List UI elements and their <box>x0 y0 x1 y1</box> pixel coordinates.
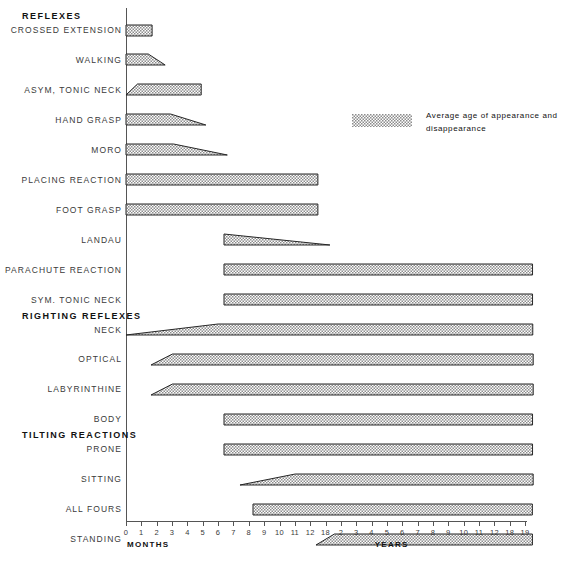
row-label-optical: OPTICAL <box>78 354 122 364</box>
row-label-sitting: SITTING <box>81 474 122 484</box>
row-label-walking: WALKING <box>76 55 122 65</box>
x-axis-tick <box>126 521 127 526</box>
bar-asym-tonic-neck <box>125 83 202 96</box>
group-heading-tilting-reactions: TILTING REACTIONS <box>22 430 137 440</box>
bar-labyrinthine <box>150 383 534 396</box>
bar-optical <box>150 353 534 366</box>
x-axis-tick <box>510 521 511 526</box>
row-label-body: BODY <box>94 414 122 424</box>
bar-landau <box>223 233 331 246</box>
x-axis-tick <box>203 521 204 526</box>
x-axis-tick <box>402 521 403 526</box>
bar-hand-grasp <box>125 113 207 126</box>
row-label-crossed-extension: CROSSED EXTENSION <box>11 25 122 35</box>
bar-walking <box>125 53 166 66</box>
x-axis-tick <box>341 521 342 526</box>
legend-swatch-icon <box>352 114 412 127</box>
bar-crossed-extension <box>125 24 153 37</box>
bar-neck <box>125 323 534 336</box>
row-label-asym-tonic-neck: ASYM, TONIC NECK <box>24 85 122 95</box>
bar-parachute-reaction <box>223 263 534 276</box>
x-axis-tick <box>372 521 373 526</box>
row-label-foot-grasp: FOOT GRASP <box>56 205 122 215</box>
row-label-prone: PRONE <box>87 444 122 454</box>
row-label-all-fours: ALL FOURS <box>66 504 122 514</box>
x-axis-tick <box>172 521 173 526</box>
row-label-hand-grasp: HAND GRASP <box>55 115 122 125</box>
x-axis-tick <box>418 521 419 526</box>
x-axis-tick <box>494 521 495 526</box>
x-axis-tick-label: 19 <box>515 528 535 537</box>
row-label-labyrinthine: LABYRINTHINE <box>48 384 122 394</box>
group-heading-righting-reflexes: RIGHTING REFLEXES <box>22 311 142 321</box>
group-heading-reflexes: REFLEXES <box>22 11 82 21</box>
x-axis-tick <box>233 521 234 526</box>
row-label-moro: MORO <box>91 145 122 155</box>
x-axis-caption-years: YEARS <box>375 540 409 549</box>
x-axis-line <box>126 521 527 522</box>
x-axis-tick <box>157 521 158 526</box>
bar-prone <box>223 443 534 456</box>
bar-body <box>223 413 534 426</box>
bar-sym-tonic-neck <box>223 293 534 306</box>
x-axis-tick <box>525 521 526 526</box>
row-label-parachute-reaction: PARACHUTE REACTION <box>5 265 122 275</box>
x-axis-tick <box>464 521 465 526</box>
row-label-neck: NECK <box>94 325 122 335</box>
x-axis-tick <box>448 521 449 526</box>
x-axis-tick <box>326 521 327 526</box>
legend-label: Average age of appearance and disappeara… <box>426 110 562 135</box>
bar-placing-reaction <box>125 173 319 186</box>
x-axis-tick <box>433 521 434 526</box>
x-axis-tick <box>387 521 388 526</box>
x-axis-tick <box>295 521 296 526</box>
row-label-placing-reaction: PLACING REACTION <box>22 175 122 185</box>
bar-foot-grasp <box>125 203 319 216</box>
row-label-standing: STANDING <box>70 534 122 544</box>
bar-moro <box>125 143 228 156</box>
x-axis-tick <box>280 521 281 526</box>
x-axis-tick <box>218 521 219 526</box>
row-label-sym-tonic-neck: SYM. TONIC NECK <box>31 295 122 305</box>
x-axis-tick <box>356 521 357 526</box>
x-axis-tick <box>187 521 188 526</box>
bar-all-fours <box>252 503 533 516</box>
x-axis-tick <box>141 521 142 526</box>
row-label-landau: LANDAU <box>81 235 122 245</box>
x-axis-tick <box>310 521 311 526</box>
x-axis-tick <box>249 521 250 526</box>
x-axis-tick <box>264 521 265 526</box>
x-axis-caption-months: MONTHS <box>127 540 169 549</box>
bar-sitting <box>239 473 534 486</box>
x-axis-tick <box>479 521 480 526</box>
